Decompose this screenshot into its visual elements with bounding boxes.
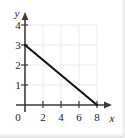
y-tick-label-2: 2	[15, 59, 21, 71]
x-axis-label: x	[109, 112, 115, 124]
y-tick-label-1: 1	[15, 79, 21, 91]
y-axis-arrowhead-icon	[22, 12, 29, 20]
x-tick-label-2: 2	[40, 111, 46, 123]
x-axis-arrowhead-icon	[104, 102, 112, 109]
x-tick-label-8: 8	[94, 111, 100, 123]
x-tick-label-6: 6	[76, 111, 82, 123]
y-tick-label-3: 3	[15, 39, 21, 51]
chart-screenshot: 4 3 2 1 0 2 4 6 8 y x	[0, 0, 125, 138]
axes	[16, 12, 112, 112]
page-edge-bottom-shadow	[0, 133, 125, 138]
y-axis-label: y	[14, 7, 20, 19]
x-tick-label-4: 4	[58, 111, 64, 123]
gridlines	[25, 25, 97, 105]
x-tick-labels: 0 2 4 6 8	[15, 111, 100, 123]
y-tick-label-4: 4	[15, 19, 21, 31]
line-graph-plot: 4 3 2 1 0 2 4 6 8 y x	[0, 0, 125, 138]
origin-label-0: 0	[15, 111, 21, 123]
y-tick-labels: 4 3 2 1	[15, 19, 21, 91]
page-edge-right-shadow	[121, 0, 125, 138]
